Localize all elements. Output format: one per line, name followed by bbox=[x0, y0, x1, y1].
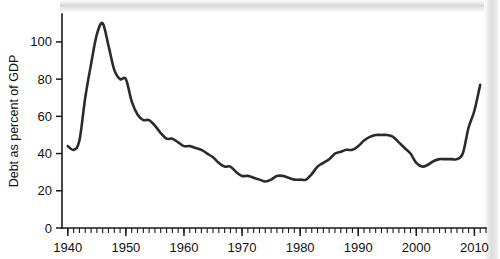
line-chart-plot: 020406080100 194019501960197019801990200… bbox=[0, 0, 500, 259]
y-tick-label: 20 bbox=[38, 183, 52, 198]
x-tick-label: 1990 bbox=[344, 240, 373, 255]
x-axis-tick-labels: 19401950196019701980199020002010 bbox=[53, 240, 488, 255]
x-tick-label: 2010 bbox=[460, 240, 489, 255]
y-axis-ticks bbox=[56, 42, 62, 228]
x-tick-label: 1960 bbox=[170, 240, 199, 255]
x-tick-label: 1950 bbox=[111, 240, 140, 255]
x-tick-label: 1980 bbox=[286, 240, 315, 255]
x-tick-label: 1970 bbox=[228, 240, 257, 255]
y-tick-label: 0 bbox=[45, 221, 52, 236]
y-tick-label: 80 bbox=[38, 72, 52, 87]
y-tick-label: 60 bbox=[38, 109, 52, 124]
y-axis-title: Debt as percent of GDP bbox=[7, 55, 21, 188]
debt-series-line bbox=[68, 23, 480, 182]
y-axis-tick-labels: 020406080100 bbox=[30, 34, 52, 235]
x-tick-label: 1940 bbox=[53, 240, 82, 255]
y-tick-label: 100 bbox=[30, 34, 52, 49]
x-tick-label: 2000 bbox=[402, 240, 431, 255]
chart-figure: 020406080100 194019501960197019801990200… bbox=[0, 0, 500, 259]
y-tick-label: 40 bbox=[38, 146, 52, 161]
